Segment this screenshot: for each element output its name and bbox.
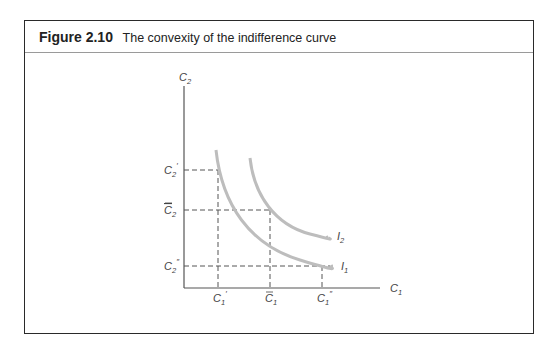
tick-c1-dprime: C1″ (317, 289, 333, 307)
y-axis-label: C2 (179, 71, 192, 86)
curve-label-i2: I2 (337, 230, 345, 245)
tick-c2-prime: C2′ (164, 161, 178, 179)
curve-i2 (250, 158, 330, 239)
tick-c2-bar: C2 (164, 204, 177, 219)
tick-c1-bar: C1 (265, 292, 277, 307)
chart-plot: C2 C1 C2′ C2 C2″ C1′ C1 C1″ I2 I1 (0, 0, 553, 337)
tick-c1-prime: C1′ (213, 289, 227, 307)
tick-c2-dprime: C2″ (164, 257, 180, 275)
curve-i1 (216, 150, 333, 269)
x-axis-label: C1 (390, 282, 402, 297)
curve-label-i1: I1 (341, 260, 348, 275)
